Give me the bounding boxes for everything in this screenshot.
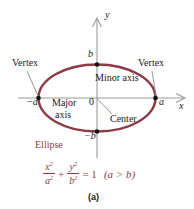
leader-line-vertex-left (27, 71, 38, 96)
x-axis-label: x (179, 101, 183, 111)
equation-x-num-exponent: 2 (50, 160, 53, 167)
equation-y-num-exponent: 2 (74, 160, 77, 167)
vertex-label-a: a (159, 97, 164, 107)
equation-y-den-exponent: 2 (74, 174, 77, 181)
vertex-point-right (153, 96, 158, 101)
y-axis-label: y (105, 10, 109, 20)
equation-x-den-exponent: 2 (50, 174, 53, 181)
annotation-vertex-right: Vertex (138, 58, 164, 68)
ellipse-equation: x2 a2 + y2 b2 = 1 (a > b) (42, 161, 135, 187)
origin-label: 0 (89, 97, 94, 107)
covertex-label-neg-b: −b (84, 131, 96, 141)
equation-plus-sign: + (58, 168, 64, 180)
equation-equals-one: = 1 (82, 168, 96, 180)
annotation-major-axis-line2: axis (55, 110, 71, 120)
leader-line-center (98, 99, 113, 114)
figure-caption: (a) (88, 193, 99, 202)
equation-condition: (a > b) (104, 168, 135, 180)
annotation-vertex-left: Vertex (12, 58, 38, 68)
covertex-point-top (95, 62, 100, 67)
equation-x-numerator: x2 (43, 161, 55, 173)
equation-fraction-x: x2 a2 (43, 161, 55, 187)
equation-x-denominator: a2 (43, 173, 55, 186)
vertex-label-neg-a: −a (26, 97, 38, 107)
annotation-ellipse: Ellipse (35, 140, 63, 150)
covertex-label-b: b (88, 49, 93, 59)
equation-fraction-y: y2 b2 (67, 161, 79, 187)
annotation-major-axis-line1: Major (52, 98, 76, 108)
annotation-minor-axis: Minor axis (95, 73, 139, 83)
annotation-center: Center (110, 114, 137, 124)
equation-y-denominator: b2 (67, 173, 79, 186)
equation-y-numerator: y2 (68, 161, 80, 173)
